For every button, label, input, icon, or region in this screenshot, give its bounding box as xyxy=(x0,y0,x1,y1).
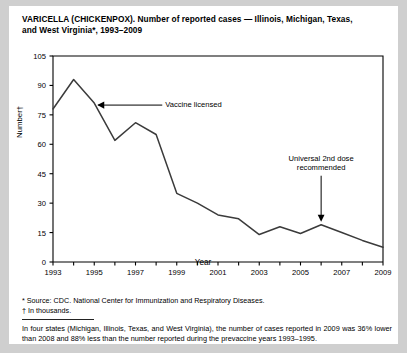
x-tick-label: 2001 xyxy=(198,268,238,277)
page-title: VARICELLA (CHICKENPOX). Number of report… xyxy=(22,14,390,36)
footnote-divider xyxy=(22,319,94,320)
y-tick-label: 30 xyxy=(22,199,46,208)
annotation-universal-2nd-dose: Universal 2nd doserecommended xyxy=(289,154,354,172)
annotation-vaccine-licensed: Vaccine licensed xyxy=(165,100,221,109)
y-tick-label: 105 xyxy=(22,52,46,61)
x-tick-label: 1995 xyxy=(74,268,114,277)
chart-plot-area: Number† Year 0153045607590105 1993199519… xyxy=(17,42,389,276)
annotation-line-1: Universal 2nd dose xyxy=(289,154,354,163)
x-tick-label: 2003 xyxy=(239,268,279,277)
y-tick-label: 45 xyxy=(22,169,46,178)
x-tick-label: 2005 xyxy=(281,268,321,277)
title-line-1: VARICELLA (CHICKENPOX). Number of report… xyxy=(22,14,390,25)
y-tick-label: 0 xyxy=(22,258,46,267)
x-tick-label: 1993 xyxy=(33,268,73,277)
annotation-line-2: recommended xyxy=(297,163,346,172)
x-tick-label: 2009 xyxy=(363,268,403,277)
footnote-units: † In thousands. xyxy=(22,306,71,316)
figure-caption: In four states (Michigan, Illinois, Texa… xyxy=(22,324,392,344)
x-tick-label: 1997 xyxy=(116,268,156,277)
y-tick-label: 60 xyxy=(22,140,46,149)
y-tick-label: 75 xyxy=(22,110,46,119)
x-tick-label: 2007 xyxy=(322,268,362,277)
figure-card: VARICELLA (CHICKENPOX). Number of report… xyxy=(9,6,398,344)
figure-page: VARICELLA (CHICKENPOX). Number of report… xyxy=(0,0,407,353)
footnote-source: * Source: CDC. National Center for Immun… xyxy=(22,296,264,306)
title-line-2: and West Virginia*, 1993–2009 xyxy=(22,25,390,36)
y-tick-label: 90 xyxy=(22,81,46,90)
y-tick-label: 15 xyxy=(22,228,46,237)
x-tick-label: 1999 xyxy=(157,268,197,277)
